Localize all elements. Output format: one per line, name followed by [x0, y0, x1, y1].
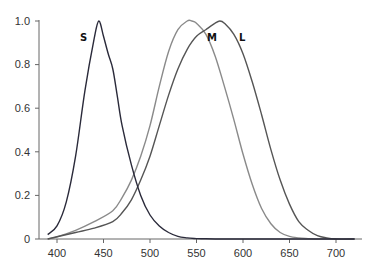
x-tick-label: 400 — [48, 247, 66, 259]
cone-sensitivity-chart: 0 0.2 0.4 0.6 0.8 1.0 400 450 500 550 60… — [0, 0, 371, 270]
x-tick-label: 700 — [327, 247, 345, 259]
x-tick-label: 500 — [141, 247, 159, 259]
y-tick-label: 0 — [24, 233, 30, 245]
label-s: S — [80, 32, 87, 43]
y-tick-label: 0.6 — [15, 102, 30, 114]
label-l: L — [239, 32, 246, 43]
y-tick-label: 0.8 — [15, 58, 30, 70]
y-tick-labels: 0 0.2 0.4 0.6 0.8 1.0 — [15, 15, 30, 245]
curve-l — [48, 21, 355, 239]
x-tick-label: 650 — [280, 247, 298, 259]
label-m: M — [207, 32, 217, 43]
x-tick-labels: 400 450 500 550 600 650 700 — [48, 247, 345, 259]
curves — [48, 20, 355, 239]
y-tick-label: 0.2 — [15, 189, 30, 201]
y-tick-label: 0.4 — [15, 146, 30, 158]
x-tick-label: 450 — [94, 247, 112, 259]
x-tick-label: 550 — [187, 247, 205, 259]
y-ticks — [35, 21, 39, 239]
x-tick-label: 600 — [234, 247, 252, 259]
y-tick-label: 1.0 — [15, 15, 30, 27]
curve-s — [48, 21, 355, 239]
